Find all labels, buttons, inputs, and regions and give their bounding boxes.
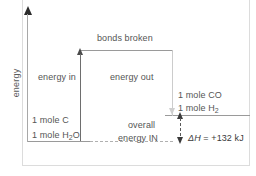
energy-in-arrow-shaft <box>80 54 81 141</box>
delta-h-symbol: ΔH <box>188 133 201 143</box>
label-bonds-broken: bonds broken <box>97 33 153 43</box>
label-product-2: 1 mole H2 <box>178 103 219 113</box>
label-reactant-2-sub: 2 <box>69 134 73 141</box>
label-overall-energy-in: energy IN <box>118 133 158 143</box>
y-axis-arrowhead-icon <box>24 6 32 15</box>
label-overall: overall <box>128 120 155 130</box>
label-energy-in: energy in <box>38 72 76 82</box>
energy-out-arrowhead-icon <box>169 108 175 115</box>
label-product-1: 1 mole CO <box>178 90 222 100</box>
label-reactant-1: 1 mole C <box>32 115 69 125</box>
energy-level-diagram: energy bonds broken energy in energy out… <box>0 0 256 176</box>
level-line-reactants <box>28 141 90 142</box>
label-reactant-2: 1 mole H2O <box>32 130 80 140</box>
label-reactant-2-post: O <box>73 130 80 140</box>
energy-out-arrow-shaft <box>172 52 173 114</box>
delta-h-value: = +132 kJ <box>201 133 244 143</box>
overall-energy-arrowhead-down-icon <box>177 137 183 144</box>
label-product-2-sub: 2 <box>215 107 219 114</box>
y-axis-label: energy <box>11 53 21 113</box>
label-product-2-pre: 1 mole H <box>178 103 215 113</box>
y-axis-line <box>27 14 28 142</box>
label-reactant-2-pre: 1 mole H <box>32 130 69 140</box>
label-energy-out: energy out <box>110 72 154 82</box>
level-line-bonds-broken <box>80 50 173 51</box>
label-delta-h: ΔH = +132 kJ <box>188 133 244 143</box>
